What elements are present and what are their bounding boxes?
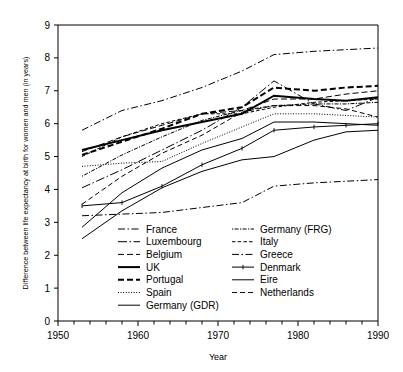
- x-tick-label: 1980: [287, 330, 310, 341]
- x-axis-title: Year: [209, 352, 227, 362]
- x-tick-label: 1960: [127, 330, 150, 341]
- legend-label: Germany (GDR): [146, 300, 219, 311]
- y-tick-label: 1: [44, 283, 50, 294]
- y-tick-label: 6: [44, 118, 50, 129]
- chart-container: 0123456789 19501960197019801990 FranceLu…: [0, 0, 403, 372]
- legend-label: Eire: [260, 274, 278, 285]
- legend-label: Portugal: [146, 274, 183, 285]
- legend-label: Greece: [260, 249, 293, 260]
- legend-label: Spain: [146, 287, 172, 298]
- legend-label: Denmark: [260, 262, 302, 273]
- legend-label: Luxembourg: [146, 236, 202, 247]
- legend-label: UK: [146, 262, 160, 273]
- y-tick-label: 3: [44, 217, 50, 228]
- legend-label: Belgium: [146, 249, 182, 260]
- y-tick-label: 8: [44, 52, 50, 63]
- chart-background: [0, 0, 403, 372]
- line-chart: 0123456789 19501960197019801990 FranceLu…: [0, 0, 403, 372]
- y-tick-label: 9: [44, 20, 50, 31]
- legend-label: Germany (FRG): [260, 224, 332, 235]
- y-tick-label: 2: [44, 250, 50, 261]
- y-tick-label: 0: [44, 316, 50, 327]
- x-tick-label: 1950: [47, 330, 70, 341]
- legend-label: Netherlands: [260, 287, 314, 298]
- legend-label: Italy: [260, 236, 278, 247]
- y-axis-title: Difference between life expectancy at bi…: [21, 57, 30, 290]
- legend-label: France: [146, 224, 178, 235]
- y-tick-label: 7: [44, 85, 50, 96]
- y-tick-label: 4: [44, 184, 50, 195]
- x-tick-label: 1990: [367, 330, 390, 341]
- y-tick-label: 5: [44, 151, 50, 162]
- x-tick-label: 1970: [207, 330, 230, 341]
